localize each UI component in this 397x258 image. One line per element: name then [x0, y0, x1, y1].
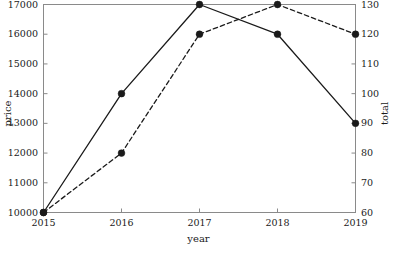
x-tick-label: 2015 — [31, 218, 55, 228]
x-tick-label: 2016 — [109, 218, 133, 228]
x-tick-label: 2017 — [187, 218, 211, 228]
x-tick-label: 2018 — [265, 218, 289, 228]
x-axis-tick-labels: 20152016201720182019 — [0, 0, 397, 258]
x-axis-title: year — [0, 233, 397, 244]
x-tick-label: 2019 — [343, 218, 367, 228]
y-axis-right-title: total — [379, 94, 390, 134]
chart-figure: 1000011000120001300014000150001600017000… — [0, 0, 397, 258]
y-axis-left-title: price — [2, 94, 13, 134]
